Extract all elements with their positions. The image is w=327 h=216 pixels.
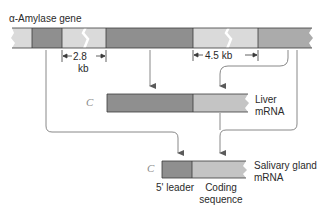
coding-label-line2: sequence (196, 194, 246, 205)
liver-label-line2: mRNA (255, 106, 284, 117)
liver-exon-dark (107, 94, 193, 112)
salivary-coding (192, 161, 247, 178)
exon-1 (32, 28, 62, 48)
coding-label-line1: Coding (200, 182, 242, 193)
liver-label-line1: Liver (255, 94, 277, 105)
liver-exon-light (193, 94, 249, 112)
intron-4.5kb (193, 28, 258, 48)
exon-3 (258, 28, 313, 48)
salivary-leader (162, 161, 192, 178)
gene-bar (11, 27, 313, 49)
liver-cap: C (86, 96, 93, 108)
gene-flank-left (11, 28, 32, 48)
amylase-diagram: α-Amylase gene 2.8 kb 4.5 kb C Liver mRN… (0, 0, 327, 216)
leader-label: 5' leader (156, 182, 194, 193)
exon-2 (106, 28, 193, 48)
gene-title: α-Amylase gene (9, 13, 81, 24)
salivary-label-line2: mRNA (254, 172, 283, 183)
liver-mrna-bar (107, 94, 249, 112)
salivary-label-line1: Salivary gland (254, 160, 317, 171)
intron1-unit: kb (78, 63, 89, 74)
salivary-mrna-bar (162, 161, 247, 178)
intron2-length: 4.5 kb (205, 50, 232, 61)
salivary-cap: C (147, 162, 154, 174)
intron1-length: 2.8 (73, 51, 87, 62)
